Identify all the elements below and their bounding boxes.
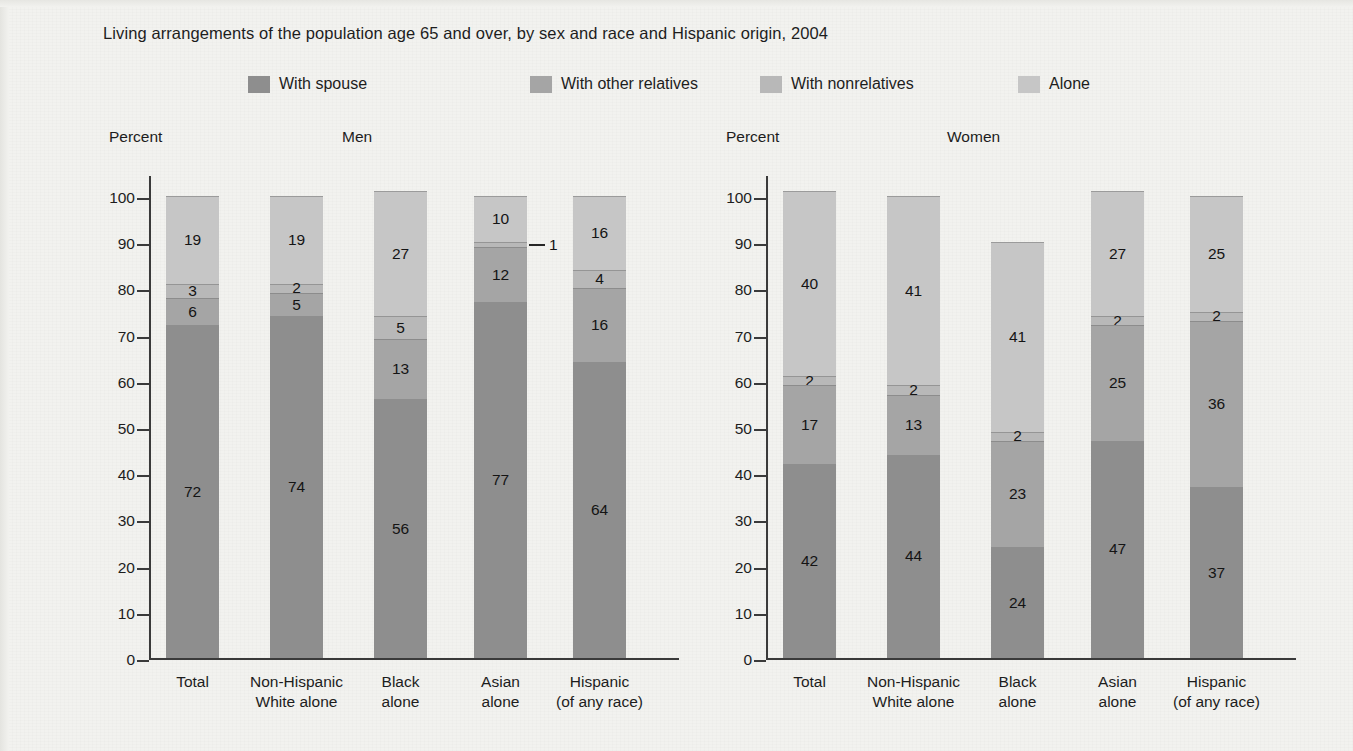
- stacked-bar[interactable]: 2722547: [1091, 191, 1144, 658]
- bar-segment[interactable]: 4: [573, 270, 626, 288]
- stacked-bar[interactable]: 1011277: [474, 196, 527, 658]
- chart-panel-men: Percent Men 0102030405060708090100193672…: [95, 0, 735, 751]
- stacked-bar[interactable]: 4122324: [991, 242, 1044, 658]
- bar-value-label: 77: [474, 472, 527, 488]
- y-axis-tick-label: 90: [118, 235, 135, 253]
- y-axis-tick: [754, 337, 766, 339]
- bar-segment[interactable]: 12: [474, 247, 527, 302]
- bar-segment[interactable]: 24: [991, 547, 1044, 658]
- bar-value-label: 27: [1091, 246, 1144, 262]
- y-axis-tick: [137, 337, 149, 339]
- bar-segment[interactable]: 25: [1190, 196, 1243, 312]
- stacked-bar[interactable]: 2751356: [374, 191, 427, 658]
- bar-value-label: 1: [549, 236, 558, 254]
- bar-segment[interactable]: 2: [270, 284, 323, 293]
- y-axis-tick: [137, 660, 149, 662]
- bar-value-label: 23: [991, 486, 1044, 502]
- bar-value-label: 74: [270, 479, 323, 495]
- bar-segment[interactable]: 2: [1190, 312, 1243, 321]
- bar-segment[interactable]: 47: [1091, 441, 1144, 658]
- y-axis-title: Percent: [109, 128, 162, 146]
- stacked-bar[interactable]: 2523637: [1190, 196, 1243, 658]
- bar-segment[interactable]: 2: [887, 385, 940, 394]
- bar-segment[interactable]: 40: [783, 191, 836, 376]
- y-axis-tick: [754, 660, 766, 662]
- bar-segment[interactable]: 44: [887, 455, 940, 658]
- stacked-bar[interactable]: 193672: [166, 196, 219, 658]
- bar-segment[interactable]: 56: [374, 399, 427, 658]
- y-axis-tick-label: 10: [735, 605, 752, 623]
- y-axis-line: [149, 176, 151, 660]
- bar-value-label: 41: [887, 283, 940, 299]
- y-axis-tick-label: 80: [735, 281, 752, 299]
- bar-segment[interactable]: 2: [1091, 316, 1144, 325]
- y-axis-tick: [137, 290, 149, 292]
- bar-value-label: 10: [474, 211, 527, 227]
- leader-line: [529, 244, 545, 246]
- bar-segment[interactable]: 13: [887, 395, 940, 455]
- bar-segment[interactable]: 23: [991, 441, 1044, 547]
- bar-segment[interactable]: 13: [374, 339, 427, 399]
- stacked-bar[interactable]: 4121344: [887, 196, 940, 658]
- stacked-bar[interactable]: 192574: [270, 196, 323, 658]
- y-axis-tick-label: 30: [735, 512, 752, 530]
- y-axis-tick-label: 50: [118, 420, 135, 438]
- bar-segment[interactable]: 2: [991, 432, 1044, 441]
- bar-value-label: 56: [374, 521, 427, 537]
- bar-value-label: 44: [887, 549, 940, 565]
- bar-segment[interactable]: 41: [887, 196, 940, 385]
- bar-segment[interactable]: 16: [573, 288, 626, 362]
- bar-value-label: 27: [374, 246, 427, 262]
- bar-segment[interactable]: 74: [270, 316, 323, 658]
- bar-value-label: 41: [991, 329, 1044, 345]
- bar-value-label: 36: [1190, 396, 1243, 412]
- y-axis-tick-label: 70: [118, 328, 135, 346]
- x-axis-category-label: Hispanic (of any race): [540, 672, 659, 713]
- bar-segment[interactable]: 72: [166, 325, 219, 658]
- y-axis-tick-label: 100: [726, 189, 752, 207]
- bar-value-label: 40: [783, 276, 836, 292]
- stacked-bar[interactable]: 4021742: [783, 191, 836, 658]
- bar-segment[interactable]: 77: [474, 302, 527, 658]
- bar-segment[interactable]: 5: [374, 316, 427, 339]
- chart-panel-women: Percent Women 01020304050607080901004021…: [712, 0, 1352, 751]
- y-axis-tick-label: 50: [735, 420, 752, 438]
- y-axis-tick-label: 30: [118, 512, 135, 530]
- bar-value-callout: 1: [529, 236, 558, 254]
- bar-segment[interactable]: 19: [166, 196, 219, 284]
- bar-segment[interactable]: 36: [1190, 321, 1243, 487]
- bar-segment[interactable]: 16: [573, 196, 626, 270]
- bar-segment[interactable]: 3: [166, 284, 219, 298]
- bar-value-label: 19: [166, 232, 219, 248]
- y-axis-tick: [754, 429, 766, 431]
- y-axis-tick: [754, 198, 766, 200]
- bar-segment[interactable]: 27: [374, 191, 427, 316]
- bar-segment[interactable]: 19: [270, 196, 323, 284]
- bar-value-label: 13: [374, 362, 427, 378]
- x-axis-category-label: Total: [133, 672, 252, 692]
- y-axis-tick-label: 60: [735, 374, 752, 392]
- bar-value-label: 42: [783, 553, 836, 569]
- bar-segment[interactable]: 17: [783, 385, 836, 464]
- y-axis-tick-label: 40: [118, 466, 135, 484]
- bar-segment[interactable]: 5: [270, 293, 323, 316]
- bar-segment[interactable]: 25: [1091, 325, 1144, 441]
- y-axis-tick: [137, 568, 149, 570]
- bar-segment[interactable]: 42: [783, 464, 836, 658]
- y-axis-tick-label: 0: [743, 651, 752, 669]
- bar-segment[interactable]: 10: [474, 196, 527, 242]
- x-axis-line: [149, 658, 679, 660]
- plot-area-women: 01020304050607080901004021742Total412134…: [766, 196, 1296, 660]
- bar-value-label: 5: [374, 320, 427, 336]
- y-axis-tick: [137, 244, 149, 246]
- bar-segment[interactable]: 27: [1091, 191, 1144, 316]
- bar-segment[interactable]: 64: [573, 362, 626, 658]
- y-axis-tick: [137, 429, 149, 431]
- bar-segment[interactable]: 6: [166, 298, 219, 326]
- bar-value-label: 24: [991, 595, 1044, 611]
- stacked-bar[interactable]: 1641664: [573, 196, 626, 658]
- bar-segment[interactable]: 41: [991, 242, 1044, 431]
- bar-segment[interactable]: 37: [1190, 487, 1243, 658]
- bar-value-label: 25: [1190, 246, 1243, 262]
- bar-segment[interactable]: 2: [783, 376, 836, 385]
